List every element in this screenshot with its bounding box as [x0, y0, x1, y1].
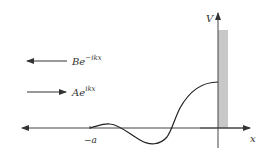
potential-diagram: Be−ikx Aeikx V x −a	[0, 0, 274, 155]
v-axis-label: V	[206, 13, 215, 24]
wavefunction-curve	[90, 82, 218, 144]
tick-label-minus-a: −a	[84, 135, 97, 145]
x-axis-label: x	[250, 133, 256, 144]
reflected-wave-label: Be−ikx	[71, 54, 102, 67]
potential-barrier	[218, 30, 228, 128]
incident-wave-label: Aeikx	[71, 85, 96, 98]
